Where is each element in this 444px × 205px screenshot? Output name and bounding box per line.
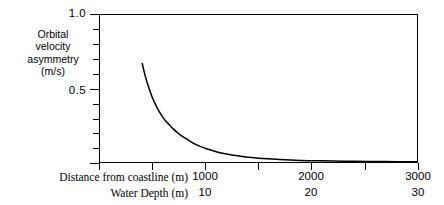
y-axis-title-line-2: velocity	[14, 40, 92, 52]
x-axis-tick-1000	[205, 163, 206, 170]
x-axis-tick-3000	[418, 163, 419, 170]
x-axis-tick-500	[152, 163, 153, 170]
x-axis-title-distance: Distance from coastline (m)	[36, 171, 188, 183]
x-axis-tick-2500	[365, 163, 366, 170]
data-curve-svg	[100, 15, 417, 162]
x-tick-label-2000: 2000	[289, 170, 333, 182]
plot-area	[99, 14, 418, 163]
y-axis-title-line-4: (m/s)	[14, 65, 92, 77]
y-tick-label-0.5: 0.5	[58, 84, 86, 96]
x-tick-label-depth-30: 30	[396, 186, 440, 198]
x-tick-label-depth-20: 20	[289, 186, 333, 198]
x-tick-label-1000: 1000	[183, 170, 227, 182]
x-tick-label-3000: 3000	[396, 170, 440, 182]
y-tick-label-1.0: 1.0	[58, 7, 86, 19]
x-axis-tick-2000	[311, 163, 312, 170]
x-axis-tick-1500	[258, 163, 259, 170]
data-series-line	[142, 64, 417, 162]
y-axis-title-line-3: asymmetry	[14, 53, 92, 65]
y-axis-title-line-1: Orbital	[14, 28, 92, 40]
x-axis-tick-0	[99, 163, 100, 170]
x-axis-title-depth: Water Depth (m)	[36, 187, 188, 199]
y-axis-title: Orbital velocity asymmetry (m/s)	[14, 28, 92, 78]
chart-figure: Orbital velocity asymmetry (m/s) 1.0 0.5…	[0, 0, 444, 205]
x-tick-label-depth-10: 10	[183, 186, 227, 198]
